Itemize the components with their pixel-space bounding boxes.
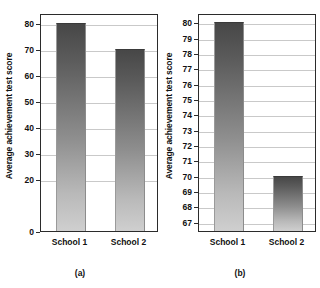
y-axis-title-a: Average achievement test score (0, 0, 18, 232)
x-axis-category-label: School 1 (52, 238, 87, 247)
y-axis-tick-label: 78 (183, 50, 192, 59)
y-axis-tick-label: 70 (25, 46, 34, 55)
y-axis-tick-label: 70 (183, 172, 192, 181)
bar (273, 176, 303, 231)
y-axis-tick-label: 76 (183, 80, 192, 89)
y-axis-tick-label: 71 (183, 157, 192, 166)
x-axis-category-label: School 2 (111, 238, 146, 247)
y-axis-tick-labels-a: 020304050607080 (18, 14, 40, 232)
x-axis-category-label: School 1 (210, 238, 245, 247)
x-axis-category-label: School 2 (269, 238, 304, 247)
x-axis-category-labels-b: School 1School 2 (198, 238, 316, 252)
y-axis-tick-label: 75 (183, 96, 192, 105)
y-axis-tick-label: 40 (25, 124, 34, 133)
y-axis-tick-label: 69 (183, 188, 192, 197)
bar (56, 23, 86, 231)
y-axis-tick-label: 50 (25, 98, 34, 107)
y-axis-tick-label: 60 (25, 72, 34, 81)
y-axis-tick-label: 20 (25, 176, 34, 185)
y-axis-tick-label: 80 (25, 20, 34, 29)
y-axis-tick-label: 80 (183, 19, 192, 28)
bar (115, 49, 145, 231)
plot-area-a (40, 14, 158, 232)
y-axis-tick-labels-b: 6768697071727374757677787980 (176, 14, 198, 232)
plot-area-b (198, 14, 316, 232)
y-axis-tick-label: 0 (29, 228, 34, 237)
x-axis-category-labels-a: School 1School 2 (40, 238, 158, 252)
chart-panel-a: Average achievement test score 020304050… (0, 0, 160, 288)
y-axis-tick-label: 30 (25, 150, 34, 159)
y-axis-tick-label: 79 (183, 34, 192, 43)
y-axis-tick-label: 68 (183, 203, 192, 212)
y-axis-tick-label: 74 (183, 111, 192, 120)
y-axis-tick-label: 67 (183, 219, 192, 228)
y-axis-tick-label: 72 (183, 142, 192, 151)
panel-caption-b: (b) (160, 268, 320, 278)
chart-panel-b: Average achievement test score 676869707… (160, 0, 320, 288)
panel-caption-a: (a) (0, 268, 160, 278)
figure-two-panel-bar-charts: Average achievement test score 020304050… (0, 0, 320, 288)
y-axis-tick-label: 77 (183, 65, 192, 74)
y-axis-tick-mark (36, 232, 40, 233)
y-axis-title-a-text: Average achievement test score (4, 53, 14, 180)
y-axis-title-b-text: Average achievement test score (164, 53, 174, 180)
y-axis-tick-label: 73 (183, 126, 192, 135)
bar (214, 22, 244, 231)
